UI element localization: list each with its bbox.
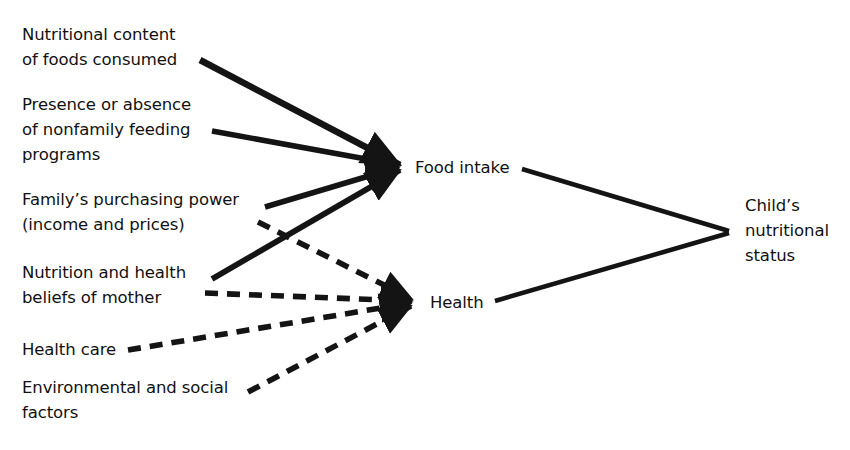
- edge-health-to-child-status: [495, 233, 729, 301]
- node-purchasing-power: Family’s purchasing power (income and pr…: [22, 187, 272, 237]
- edge-purchasing-power-to-food-intake: [265, 167, 399, 207]
- node-food-intake: Food intake: [415, 155, 545, 180]
- node-environmental-social-factors: Environmental and social factors: [22, 375, 262, 425]
- diagram-canvas: Nutritional content of foods consumed Pr…: [0, 0, 850, 450]
- node-health-care: Health care: [22, 337, 142, 362]
- node-feeding-programs: Presence or absence of nonfamily feeding…: [22, 92, 262, 167]
- node-mother-beliefs: Nutrition and health beliefs of mother: [22, 260, 237, 310]
- node-health: Health: [430, 290, 520, 315]
- edge-purchasing-power-to-health: [258, 222, 412, 299]
- node-nutritional-content: Nutritional content of foods consumed: [22, 22, 252, 72]
- edge-food-intake-to-child-status: [522, 169, 729, 231]
- node-child-nutritional-status: Child’s nutritional status: [745, 193, 845, 268]
